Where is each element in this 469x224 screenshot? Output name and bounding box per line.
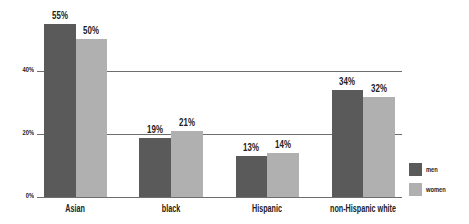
- y-tick-label-20: 20%: [5, 128, 34, 137]
- value-label-hispanic-men: 13%: [237, 141, 266, 153]
- bar-nonhispanic-white-women: [363, 97, 395, 197]
- value-label-asian-women: 50%: [77, 24, 106, 36]
- value-label-black-women: 21%: [173, 116, 202, 128]
- bar-asian-women: [76, 39, 107, 197]
- legend-swatch-women: [409, 183, 422, 196]
- bar-nonhispanic-white-men: [332, 90, 363, 197]
- bar-hispanic-men: [236, 156, 267, 197]
- category-label-black: black: [128, 203, 214, 214]
- x-axis-baseline: [37, 197, 402, 198]
- bar-black-women: [171, 131, 203, 197]
- y-tick-label-0: 0%: [5, 191, 34, 200]
- value-label-hispanic-women: 14%: [269, 138, 298, 150]
- legend-label-women: women: [426, 185, 446, 194]
- category-label-hispanic: Hispanic: [224, 203, 310, 214]
- value-label-asian-men: 55%: [46, 9, 75, 21]
- bar-hispanic-women: [267, 153, 299, 197]
- category-label-asian: Asian: [32, 203, 118, 214]
- bar-asian-men: [44, 24, 76, 197]
- bar-chart: 40% 20% 0% 55% 50% Asian 19% 21% black 1…: [0, 0, 469, 224]
- value-label-black-men: 19%: [141, 123, 170, 135]
- value-label-nonhispanic-white-men: 34%: [333, 75, 362, 87]
- legend-swatch-men: [409, 163, 422, 176]
- category-label-nonhispanic-white: non-Hispanic white: [320, 203, 406, 214]
- legend-label-men: men: [426, 165, 438, 174]
- y-tick-label-40: 40%: [5, 65, 34, 74]
- value-label-nonhispanic-white-women: 32%: [365, 82, 394, 94]
- bar-black-men: [139, 138, 171, 197]
